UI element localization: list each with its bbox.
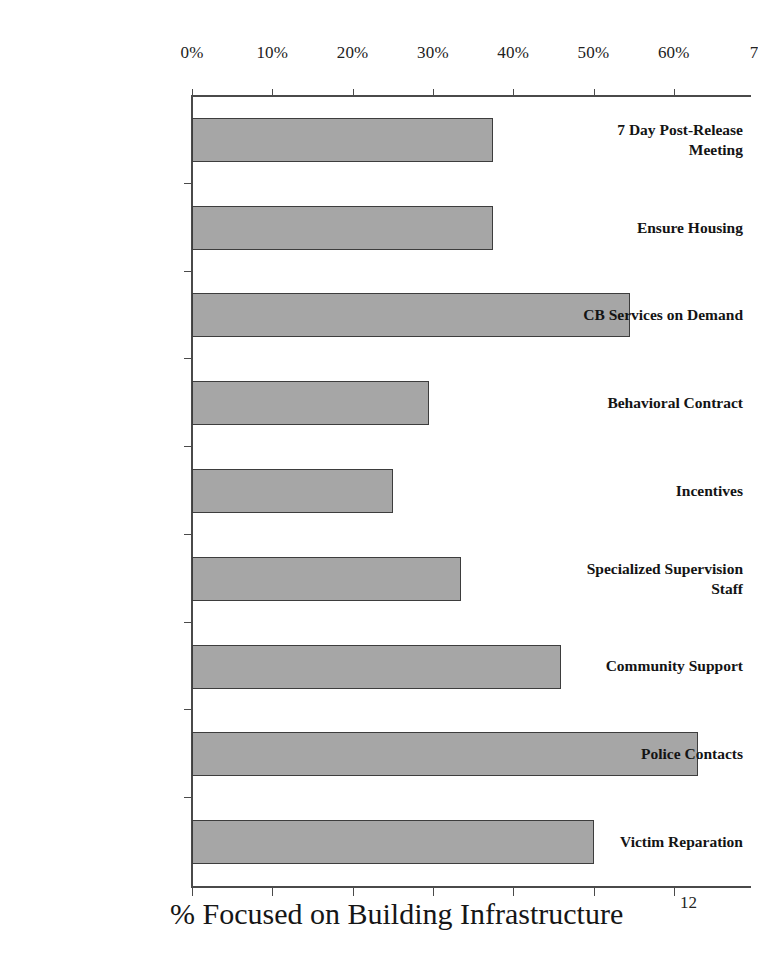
bar-1[interactable] — [192, 118, 493, 162]
category-label-8: Police Contacts — [563, 744, 743, 764]
category-label-5: Incentives — [563, 481, 743, 501]
page-number: 12 — [680, 893, 697, 913]
bar-9[interactable] — [192, 820, 594, 864]
bar-6[interactable] — [192, 557, 461, 601]
cut-off-slide-title — [0, 0, 751, 4]
x-tick-label-20: 20% — [337, 43, 369, 63]
category-label-6: Specialized Supervision Staff — [563, 559, 743, 599]
x-tick-label-60: 60% — [658, 43, 690, 63]
category-label-7: Community Support — [563, 656, 743, 676]
x-tick-mark-bottom-60 — [674, 888, 675, 896]
x-tick-mark-bottom-30 — [433, 888, 434, 896]
bar-2[interactable] — [192, 206, 493, 250]
category-label-9: Victim Reparation — [563, 832, 743, 852]
bar-4[interactable] — [192, 381, 429, 425]
category-label-3: CB Services on Demand — [563, 305, 743, 325]
x-axis-title: % Focused on Building Infrastructure — [170, 897, 600, 931]
x-tick-label-70: 7 — [750, 43, 758, 63]
x-tick-label-10: 10% — [256, 43, 288, 63]
x-tick-label-50: 50% — [578, 43, 610, 63]
x-tick-label-40: 40% — [497, 43, 529, 63]
category-label-2: Ensure Housing — [563, 218, 743, 238]
x-tick-label-30: 30% — [417, 43, 449, 63]
bar-5[interactable] — [192, 469, 393, 513]
x-tick-mark-bottom-50 — [594, 888, 595, 896]
x-tick-mark-bottom-40 — [513, 888, 514, 896]
x-tick-label-0: 0% — [180, 43, 203, 63]
x-tick-mark-bottom-20 — [353, 888, 354, 896]
x-tick-mark-bottom-10 — [272, 888, 273, 896]
category-label-4: Behavioral Contract — [563, 393, 743, 413]
category-label-1: 7 Day Post-Release Meeting — [563, 120, 743, 160]
x-tick-mark-bottom-0 — [192, 888, 193, 896]
bar-7[interactable] — [192, 645, 561, 689]
x-axis-tick-labels: 0%10%20%30%40%50%60%7 — [0, 43, 751, 67]
